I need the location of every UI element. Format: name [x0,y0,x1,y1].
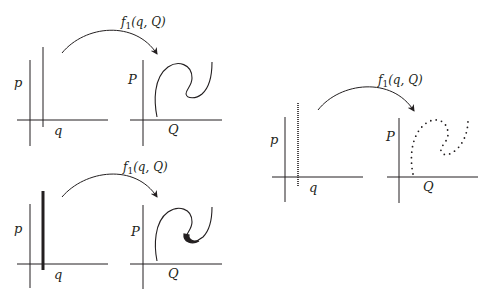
transformed-curve [155,62,212,117]
p-axis-label: p [14,75,23,90]
domain-axes: p q [270,103,363,202]
codomain-axes: P Q [385,118,478,203]
q-axis-label: q [54,267,62,282]
panel-right: p q f1(q, Q) P Q [270,73,478,203]
mapping-label: f1(q, Q) [120,15,166,31]
panel-top-left: p q f1(q, Q) P Q [14,15,222,146]
P-axis-label: P [385,129,395,144]
codomain-axes: P Q [130,205,222,289]
mapping-arrow [62,30,157,54]
p-axis-label: p [14,221,23,236]
codomain-axes: P Q [127,60,222,146]
P-axis-label: P [127,72,137,87]
domain-axes: p q [14,191,108,288]
mapping-label: f1(q, Q) [122,160,168,176]
Q-axis-label: Q [168,266,179,281]
domain-axes: p q [14,47,108,146]
p-axis-label: p [270,132,279,147]
Q-axis-label: Q [168,122,179,137]
transformed-dotted-curve [411,120,468,174]
panel-bottom-left: p q f1(q, Q) P Q [14,160,222,289]
Q-axis-label: Q [423,179,434,194]
mapping-arrow [318,87,414,111]
mapping-arrow [62,174,157,197]
q-axis-label: q [54,123,62,138]
canonical-transformation-diagram: p q f1(q, Q) P Q p q f1(q, Q) P Q [0,0,488,300]
mapping-label: f1(q, Q) [377,73,423,89]
q-axis-label: q [309,180,317,195]
stretched-thick-segment [184,234,199,243]
P-axis-label: P [130,224,140,239]
